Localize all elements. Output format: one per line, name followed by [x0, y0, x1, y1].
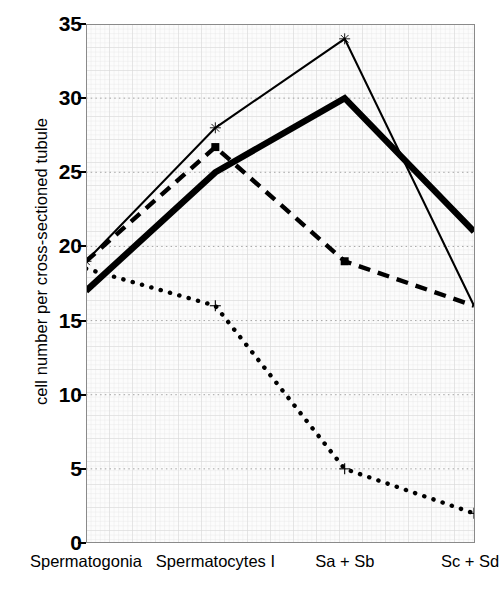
y-axis-tick-mark: [78, 394, 86, 396]
y-axis-tick-mark: [78, 542, 86, 544]
plot-area: [86, 24, 475, 543]
chart-figure: cell number per cross-sectioned tubule 0…: [0, 0, 503, 600]
x-axis-tick-label: Sa + Sb: [315, 552, 374, 571]
y-axis-tick-mark: [78, 171, 86, 173]
y-axis-tick-label: 0: [38, 532, 82, 553]
x-axis-tick-label: Spermatogonia: [30, 552, 142, 571]
plot-grid: [86, 24, 475, 543]
marker-square: [211, 143, 219, 151]
x-axis-tick-label: Sc + Sd: [441, 552, 499, 571]
y-axis-tick-mark: [78, 468, 86, 470]
y-axis-tick-label: 25: [38, 161, 82, 182]
y-axis-tick-label: 15: [38, 310, 82, 331]
y-axis-tick-label: 30: [38, 87, 82, 108]
y-axis-tick-mark: [78, 97, 86, 99]
marker-square: [341, 257, 349, 265]
y-axis-tick-label: 10: [38, 384, 82, 405]
x-axis-tick-label: Spermatocytes I: [156, 552, 275, 571]
y-axis-tick-label: 20: [38, 235, 82, 256]
y-axis-tick-mark: [78, 23, 86, 25]
y-axis-tick-mark: [78, 320, 86, 322]
y-axis-tick-labels: 05101520253035: [34, 0, 82, 600]
chart-svg: [86, 24, 475, 543]
y-axis-tick-mark: [78, 245, 86, 247]
y-axis-tick-label: 35: [38, 13, 82, 34]
y-axis-tick-label: 5: [38, 458, 82, 479]
